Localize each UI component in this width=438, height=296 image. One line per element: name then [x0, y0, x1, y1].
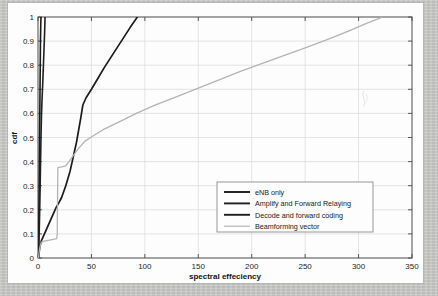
legend-label: eNB only — [255, 188, 285, 197]
y-tick-label: 0.8 — [23, 61, 35, 70]
x-tick-label: 0 — [36, 262, 41, 271]
y-tick-label: 0.9 — [23, 37, 35, 46]
x-tick-label: 250 — [298, 262, 312, 271]
x-axis-tick-labels: 050100150200250300350 — [36, 262, 419, 271]
legend-label: Beamforming vector — [255, 222, 320, 231]
y-tick-label: 0.5 — [23, 134, 35, 143]
legend-label: Amplify and Forward Relaying — [255, 199, 351, 208]
x-tick-label: 100 — [138, 262, 152, 271]
x-tick-label: 150 — [192, 262, 206, 271]
y-tick-label: 0.6 — [23, 109, 35, 118]
x-tick-label: 200 — [245, 262, 259, 271]
legend-label: Decode and forward coding — [255, 211, 343, 220]
y-tick-label: 0.2 — [23, 206, 35, 215]
x-tick-label: 50 — [87, 262, 96, 271]
y-tick-label: 0.1 — [23, 230, 35, 239]
cdf-plot: 050100150200250300350 00.10.20.30.40.50.… — [8, 3, 423, 283]
y-tick-label: 0.3 — [23, 182, 35, 191]
legend[interactable]: eNB onlyAmplify and Forward RelayingDeco… — [217, 182, 373, 232]
y-tick-label: 0 — [30, 254, 35, 263]
scan-artifact — [363, 91, 368, 107]
x-tick-label: 350 — [405, 262, 419, 271]
y-tick-label: 1 — [30, 13, 35, 22]
y-tick-label: 0.7 — [23, 85, 35, 94]
y-axis-tick-labels: 00.10.20.30.40.50.60.70.80.91 — [23, 13, 35, 263]
y-tick-label: 0.4 — [23, 158, 35, 167]
x-axis-title: spectral effeciency — [189, 272, 262, 281]
y-axis-title: cdf — [10, 132, 19, 144]
scanned-page-background: 050100150200250300350 00.10.20.30.40.50.… — [0, 0, 438, 296]
x-tick-label: 300 — [352, 262, 366, 271]
figure-canvas: 050100150200250300350 00.10.20.30.40.50.… — [8, 3, 423, 283]
